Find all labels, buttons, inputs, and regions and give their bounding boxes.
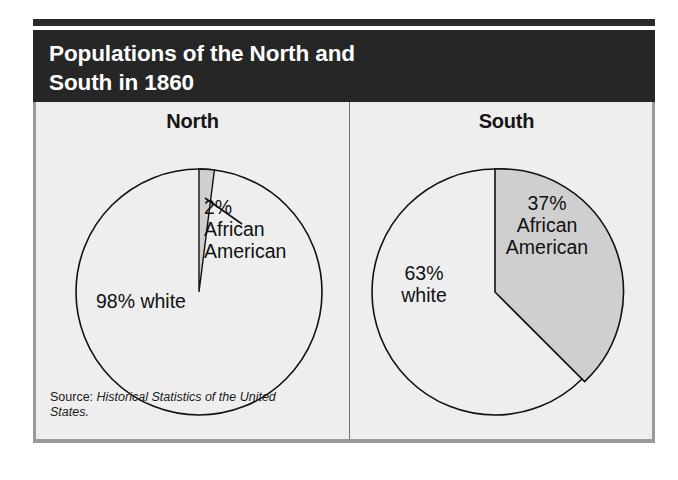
pie-label-north-african-american: 2% African American (204, 196, 286, 262)
pie-label-north-white: 98% white (96, 290, 186, 312)
figure-title: Populations of the North and South in 18… (49, 39, 655, 97)
pie-chart-north (36, 102, 349, 439)
source-label: Source: (50, 390, 97, 404)
title-bar: Populations of the North and South in 18… (33, 30, 655, 102)
pie-label-south-white: 63% white (378, 262, 470, 306)
pie-panel-north: North 2% African American 98% white Sour… (36, 102, 349, 439)
chart-panel: North 2% African American 98% white Sour… (33, 102, 655, 443)
top-rule (33, 19, 655, 26)
pie-panel-south: South 37% African American 63% white (350, 102, 663, 439)
source-note: Source: Historical Statistics of the Uni… (50, 390, 300, 420)
figure-container: Populations of the North and South in 18… (33, 19, 655, 443)
pie-svg-north (36, 102, 349, 439)
pie-label-south-african-american: 37% African American (482, 192, 612, 258)
